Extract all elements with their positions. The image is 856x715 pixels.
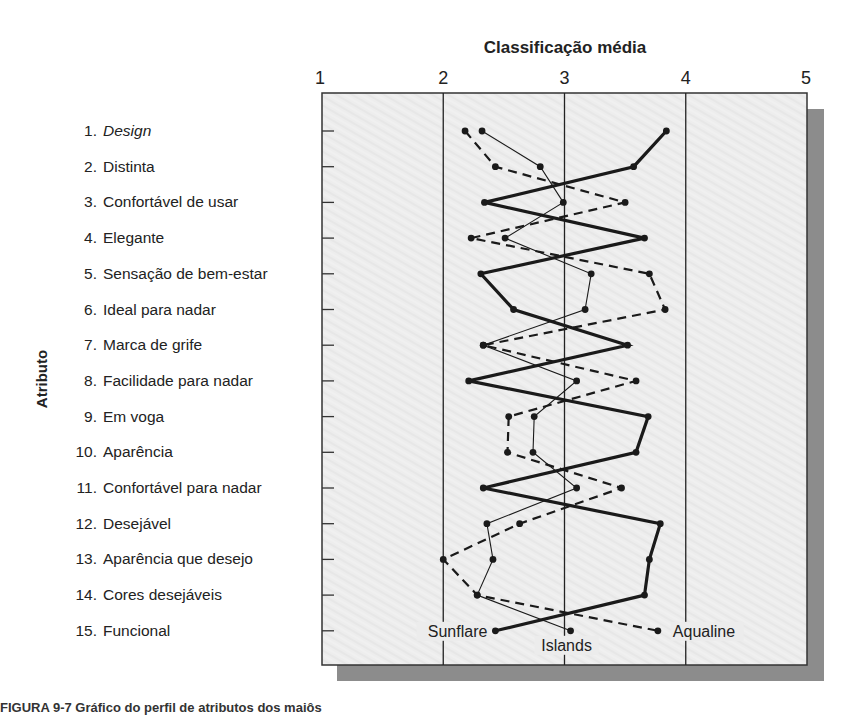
attribute-name: Sensação de bem-estar (103, 265, 268, 282)
attribute-name: Marca de grife (103, 336, 202, 353)
data-point (641, 235, 648, 242)
data-point (630, 163, 637, 170)
attribute-name: Confortável de usar (103, 193, 238, 210)
data-point (662, 306, 669, 313)
data-point (480, 485, 487, 492)
attribute-number: 13. (75, 550, 97, 567)
data-point (492, 163, 499, 170)
attribute-number: 5. (84, 265, 97, 282)
attribute-name: Funcional (103, 622, 170, 639)
data-point (567, 627, 574, 634)
data-point (560, 199, 567, 206)
x-tick-label: 5 (801, 68, 811, 88)
attribute-name: Ideal para nadar (103, 301, 216, 318)
data-point (622, 199, 629, 206)
attribute-name: Design (103, 122, 151, 139)
data-point (474, 592, 481, 599)
data-point (633, 378, 640, 385)
attribute-name: Distinta (103, 158, 155, 175)
data-point (465, 378, 472, 385)
series-label-sunflare: Sunflare (428, 623, 488, 640)
data-point (573, 485, 580, 492)
attribute-number: 10. (75, 443, 97, 460)
attribute-number: 4. (84, 229, 97, 246)
data-point (468, 235, 475, 242)
data-point (582, 306, 589, 313)
y-axis-label: Atributo (33, 350, 50, 408)
attribute-number: 12. (75, 515, 97, 532)
attribute-number: 6. (84, 301, 97, 318)
x-tick-label: 4 (681, 68, 691, 88)
attribute-name: Aparência que desejo (103, 550, 253, 567)
attribute-name: Em voga (103, 408, 165, 425)
attribute-name: Facilidade para nadar (103, 372, 253, 389)
data-point (624, 342, 631, 349)
data-point (641, 592, 648, 599)
x-axis-tick-labels: 12345 (315, 68, 811, 88)
data-point (477, 270, 484, 277)
figure-caption: FIGURA 9-7 Gráfico do perfil de atributo… (0, 700, 322, 715)
series-label-islands: Islands (541, 637, 592, 654)
data-point (573, 378, 580, 385)
attribute-number: 8. (84, 372, 97, 389)
attribute-name: Confortável para nadar (103, 479, 262, 496)
data-point (654, 627, 661, 634)
attribute-name: Elegante (103, 229, 164, 246)
data-point (481, 199, 488, 206)
attribute-number: 14. (75, 586, 97, 603)
data-point (646, 556, 653, 563)
attribute-name: Desejável (103, 515, 171, 532)
attribute-number: 1. (84, 122, 97, 139)
data-point (484, 520, 491, 527)
attribute-labels: 1.Design2.Distinta3.Confortável de usar4… (75, 122, 267, 639)
data-point (480, 342, 487, 349)
attribute-number: 11. (77, 479, 97, 496)
data-point (531, 413, 538, 420)
data-point (502, 235, 509, 242)
data-point (504, 449, 511, 456)
data-point (645, 413, 652, 420)
x-tick-label: 3 (559, 68, 569, 88)
data-point (530, 449, 537, 456)
x-tick-label: 1 (315, 68, 325, 88)
attribute-name: Cores desejáveis (103, 586, 222, 603)
data-point (633, 449, 640, 456)
data-point (657, 520, 664, 527)
chart-title: Classificação média (484, 38, 647, 57)
data-point (537, 163, 544, 170)
attribute-number: 9. (84, 408, 97, 425)
series-label-aqualine: Aqualine (673, 623, 735, 640)
data-point (505, 413, 512, 420)
data-point (588, 270, 595, 277)
attribute-number: 15. (75, 622, 97, 639)
data-point (516, 520, 523, 527)
attribute-number: 3. (84, 193, 97, 210)
data-point (490, 556, 497, 563)
x-tick-label: 2 (438, 68, 448, 88)
data-point (646, 270, 653, 277)
attribute-number: 7. (84, 336, 97, 353)
data-point (510, 306, 517, 313)
data-point (618, 485, 625, 492)
data-point (663, 128, 670, 135)
data-point (492, 627, 499, 634)
data-point (479, 128, 486, 135)
attribute-number: 2. (84, 158, 97, 175)
attribute-name: Aparência (103, 443, 173, 460)
data-point (440, 556, 447, 563)
data-point (462, 128, 469, 135)
